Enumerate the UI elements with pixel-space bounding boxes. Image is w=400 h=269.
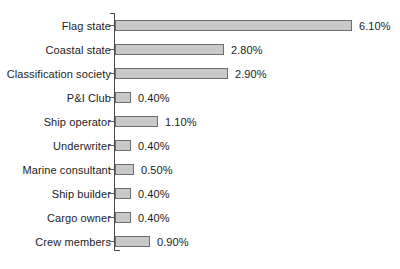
axis-tick [109, 97, 114, 98]
bar-value-label: 1.10% [165, 110, 197, 134]
bar-row: Underwriter0.40% [0, 134, 400, 158]
axis-tick [109, 217, 114, 218]
bar-value-label: 2.80% [231, 38, 263, 62]
bar-value-label: 6.10% [359, 14, 391, 38]
bar-row: Coastal state2.80% [0, 38, 400, 62]
axis-tick [109, 49, 114, 50]
axis-tick [109, 73, 114, 74]
bar [115, 68, 228, 79]
category-label: Underwriter [53, 134, 111, 158]
bar-row: Ship builder0.40% [0, 182, 400, 206]
bar-value-label: 2.90% [235, 62, 267, 86]
category-label: Ship operator [44, 110, 111, 134]
axis-tick [109, 145, 114, 146]
category-label: Ship builder [52, 182, 111, 206]
category-label: Coastal state [45, 38, 111, 62]
category-label: Classification society [7, 62, 111, 86]
category-label: Marine consultant [22, 158, 111, 182]
bar-row: Cargo owner0.40% [0, 206, 400, 230]
axis-tick [109, 121, 114, 122]
bar [115, 116, 158, 127]
bar-row: Flag state6.10% [0, 14, 400, 38]
bar [115, 44, 224, 55]
bar [115, 92, 131, 103]
plot-area: Flag state6.10%Coastal state2.80%Classif… [0, 0, 400, 269]
bar-row: Classification society2.90% [0, 62, 400, 86]
bar-value-label: 0.40% [138, 86, 170, 110]
bar [115, 140, 131, 151]
bar [115, 164, 134, 175]
bar [115, 212, 131, 223]
bar-value-label: 0.40% [138, 206, 170, 230]
bar-value-label: 0.40% [138, 134, 170, 158]
category-label: Crew members [35, 230, 111, 254]
axis-tick [109, 241, 114, 242]
bar [115, 188, 131, 199]
bar [115, 236, 150, 247]
bar-chart: Flag state6.10%Coastal state2.80%Classif… [0, 0, 400, 269]
axis-tick [109, 169, 114, 170]
category-label: Cargo owner [47, 206, 111, 230]
bar-row: Ship operator1.10% [0, 110, 400, 134]
category-label: Flag state [62, 14, 111, 38]
axis-tick [109, 193, 114, 194]
bar-value-label: 0.50% [141, 158, 173, 182]
bar-row: P&I Club0.40% [0, 86, 400, 110]
bar-row: Crew members0.90% [0, 230, 400, 254]
bar-row: Marine consultant0.50% [0, 158, 400, 182]
bar-value-label: 0.90% [157, 230, 189, 254]
bar [115, 20, 352, 31]
axis-tick [109, 25, 114, 26]
bar-value-label: 0.40% [138, 182, 170, 206]
category-label: P&I Club [67, 86, 111, 110]
